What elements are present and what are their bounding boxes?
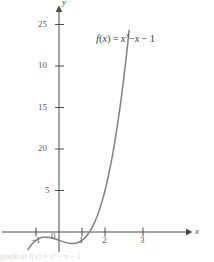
x-tick-label-0: 0 (51, 232, 56, 241)
fn-minus-2: − (142, 33, 148, 44)
y-axis-label: y (62, 0, 66, 7)
y-tick-label-5: 5 (45, 186, 50, 195)
y-tick-label-20: 20 (38, 144, 47, 153)
x-tick-label-3: 3 (140, 236, 145, 245)
figure-caption-faint: graph of f(x) = x³ − x − 1 (0, 252, 214, 262)
y-tick-label-25: 25 (38, 20, 47, 29)
fn-var3: x (135, 33, 140, 44)
function-equation-label: f(x) = x3−x − 1 (96, 34, 155, 45)
function-graph-figure: 25 20 15 10 5 −1 0 1 2 3 x y f(x) = x3−x… (0, 0, 214, 262)
x-axis-label: x (195, 227, 199, 236)
x-axis-arrow-icon (186, 229, 193, 236)
y-tick-label-10: 10 (38, 61, 47, 70)
fn-close-paren: ) (107, 33, 111, 44)
x-tick-label-2: 2 (102, 236, 107, 245)
y-tick-label-15: 15 (38, 103, 47, 112)
x-tick-label-neg1: −1 (31, 236, 41, 245)
fn-equals: = (113, 33, 119, 44)
x-tick-label-1: 1 (79, 236, 84, 245)
fn-constant: 1 (150, 33, 155, 44)
